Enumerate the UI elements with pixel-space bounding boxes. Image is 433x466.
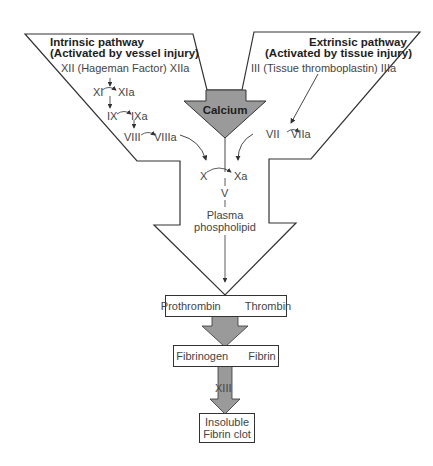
fibrinogen-label: Fibrinogen: [176, 350, 228, 362]
thrombin-label: Thrombin: [245, 300, 291, 312]
factor-ixa: IXa: [131, 110, 148, 122]
factor-iii: III (Tissue thromboplastin) IIIa: [251, 62, 396, 74]
factor-xiii: XIII: [215, 382, 232, 394]
factor-ix: IX: [107, 110, 117, 122]
calcium-label: Calcium: [202, 104, 248, 116]
phospholipid-line2: phospholipid: [185, 221, 265, 233]
intrinsic-subtitle: (Activated by vessel injury): [50, 47, 199, 59]
prothrombin-box: Prothrombin Thrombin: [165, 295, 287, 317]
factor-x: X: [200, 170, 207, 182]
factor-xia: XIa: [118, 86, 135, 98]
factor-xii: XII (Hageman Factor) XIIa: [61, 62, 189, 74]
fibrin-label: Fibrin: [248, 350, 276, 362]
factor-vii: VII: [266, 128, 279, 140]
factor-viii: VIII: [124, 131, 141, 143]
clot-box: Insoluble Fibrin clot: [199, 413, 255, 443]
factor-xi: XI: [93, 86, 103, 98]
prothrombin-label: Prothrombin: [161, 300, 221, 312]
clot-line2: Fibrin clot: [203, 428, 251, 440]
extrinsic-subtitle: (Activated by tissue injury): [265, 47, 412, 59]
phospholipid-line1: Plasma: [185, 209, 265, 221]
factor-xa: Xa: [234, 170, 247, 182]
factor-viia: VIIa: [291, 128, 311, 140]
factor-v: V: [221, 187, 228, 199]
factor-viiia: VIIIa: [154, 131, 177, 143]
fibrinogen-box: Fibrinogen Fibrin: [173, 345, 279, 367]
clot-line1: Insoluble: [205, 416, 249, 428]
thrombin-arrow: [202, 316, 248, 347]
